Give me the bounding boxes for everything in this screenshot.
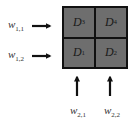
cell-label-base: D <box>105 15 114 30</box>
cell-label-sub: 4 <box>114 18 118 26</box>
cell-label-base: D <box>73 15 82 30</box>
column-input-label-w21: w2,1 <box>70 105 86 119</box>
column-input-label-w22: w2,2 <box>104 105 120 119</box>
cell-label-sub: 1 <box>82 49 86 57</box>
cell-label-sub: 3 <box>82 18 86 26</box>
cell-label-sub: 2 <box>114 49 118 57</box>
label-sub: 2,1 <box>77 111 86 119</box>
cell-label-base: D <box>73 45 82 60</box>
cell-label-base: D <box>105 45 114 60</box>
cell-d2: D2 <box>96 39 126 68</box>
label-sub: 2,2 <box>111 111 120 119</box>
label-sub: 1,1 <box>15 25 24 33</box>
row-input-label-w12: w1,2 <box>8 49 24 63</box>
cell-d4: D4 <box>96 8 126 37</box>
label-sub: 1,2 <box>15 55 24 63</box>
cell-d1: D1 <box>64 39 94 68</box>
diagram-canvas: D3 D4 D1 D2 w1,1 w1,2 w2,1 w2,2 <box>0 0 133 126</box>
row-input-label-w11: w1,1 <box>8 19 24 33</box>
matrix-grid: D3 D4 D1 D2 <box>62 6 128 69</box>
cell-d3: D3 <box>64 8 94 37</box>
